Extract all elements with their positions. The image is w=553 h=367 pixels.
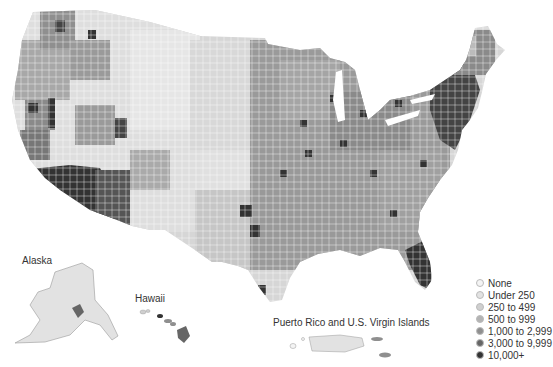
alaska-inset xyxy=(15,263,118,343)
hawaii-inset xyxy=(140,310,190,344)
legend-item: Under 250 xyxy=(476,289,553,301)
legend-item: 1,000 to 2,999 xyxy=(476,325,553,337)
legend-swatch-250-499 xyxy=(476,303,484,311)
puerto-rico-label: Puerto Rico and U.S. Virgin Islands xyxy=(273,317,430,328)
legend-item: 10,000+ xyxy=(476,349,553,361)
legend-swatch-10000-plus xyxy=(476,351,484,359)
legend-label: None xyxy=(488,278,512,289)
legend-label: 1,000 to 2,999 xyxy=(488,326,552,337)
legend-item: 500 to 999 xyxy=(476,313,553,325)
legend-label: Under 250 xyxy=(488,290,535,301)
legend-item: 250 to 499 xyxy=(476,301,553,313)
legend-swatch-3000-9999 xyxy=(476,339,484,347)
legend-label: 250 to 499 xyxy=(488,302,535,313)
puerto-rico-inset xyxy=(290,335,391,358)
legend-swatch-none xyxy=(476,279,484,287)
legend-item: None xyxy=(476,277,553,289)
legend-label: 3,000 to 9,999 xyxy=(488,338,552,349)
legend-label: 10,000+ xyxy=(488,350,524,361)
legend-item: 3,000 to 9,999 xyxy=(476,337,553,349)
legend-swatch-500-999 xyxy=(476,315,484,323)
legend: None Under 250 250 to 499 500 to 999 1,0… xyxy=(476,277,553,361)
alaska-label: Alaska xyxy=(22,255,52,266)
legend-label: 500 to 999 xyxy=(488,314,535,325)
legend-swatch-1000-2999 xyxy=(476,327,484,335)
hawaii-label: Hawaii xyxy=(135,293,165,304)
legend-swatch-under-250 xyxy=(476,291,484,299)
choropleth-map xyxy=(0,0,553,367)
